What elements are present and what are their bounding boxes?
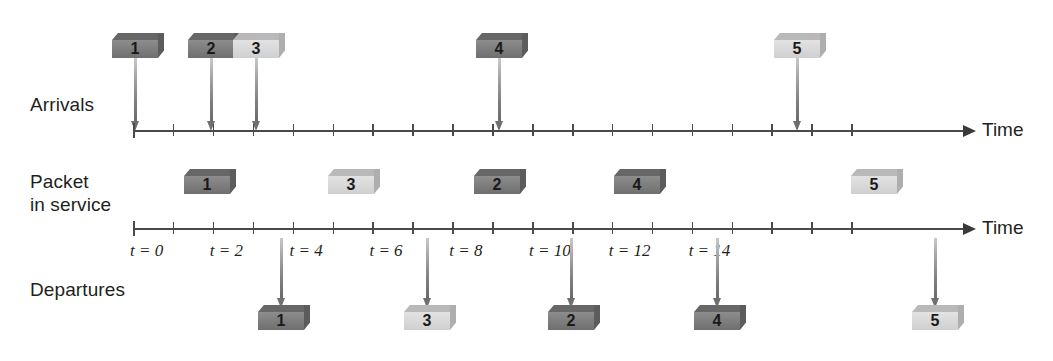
arrivals-axis-tick <box>771 124 773 136</box>
arrival-arrow-5 <box>793 58 802 131</box>
arrivals-axis-tick <box>811 124 813 136</box>
time-caption-t6: t = 6 <box>369 241 402 261</box>
packet-top-face <box>112 33 164 40</box>
packet-id-label: 3 <box>328 176 374 194</box>
packet-top-face <box>258 305 310 312</box>
packet-top-face <box>328 169 380 176</box>
arrivals-axis-tick <box>492 124 494 136</box>
arrow-shaft <box>280 238 283 299</box>
service-axis-tick <box>572 222 574 234</box>
arrivals-axis-arrowhead <box>963 125 976 137</box>
arrivals-time-axis-label: Time <box>982 119 1024 141</box>
packet-top-face <box>404 305 456 312</box>
arrival-packet-5: 5 <box>774 33 826 58</box>
arrivals-axis-line <box>133 130 963 132</box>
service-packet-3: 3 <box>328 169 380 194</box>
time-caption-t4: t = 4 <box>290 241 323 261</box>
service-axis-tick <box>372 222 374 234</box>
arrow-shaft <box>498 58 501 122</box>
packet-top-face <box>474 169 526 176</box>
packet-side-face <box>158 33 164 58</box>
packet-side-face <box>897 169 903 194</box>
arrivals-axis-tick <box>692 124 694 136</box>
service-axis-tick <box>333 222 335 234</box>
packet-top-face <box>548 305 600 312</box>
packet-side-face <box>374 169 380 194</box>
packet-timing-diagram: Arrivals 12345 Time Packet in service 13… <box>0 0 1053 361</box>
packet-side-face <box>820 33 826 58</box>
packet-side-face <box>958 305 964 330</box>
service-axis-tick <box>811 222 813 234</box>
packet-id-label: 1 <box>112 40 158 58</box>
service-packet-1: 1 <box>184 169 236 194</box>
packet-side-face <box>594 305 600 330</box>
service-axis-tick <box>652 222 654 234</box>
arrivals-axis-tick <box>532 124 534 136</box>
departures-row-label: Departures <box>30 278 125 301</box>
departure-packet-4: 4 <box>694 305 746 330</box>
service-axis-tick <box>612 222 614 234</box>
arrivals-axis-tick <box>732 124 734 136</box>
packet-id-label: 1 <box>258 312 304 330</box>
packet-id-label: 3 <box>233 40 279 58</box>
time-caption-t12: t = 12 <box>609 241 651 261</box>
packet-id-label: 3 <box>404 312 450 330</box>
packet-id-label: 1 <box>184 176 230 194</box>
departure-packet-1: 1 <box>258 305 310 330</box>
arrow-shaft <box>255 58 258 122</box>
service-axis-line <box>133 228 963 230</box>
packet-id-label: 2 <box>188 40 234 58</box>
departure-arrow-4 <box>713 238 722 308</box>
departure-arrow-3 <box>423 238 432 308</box>
arrivals-axis-tick <box>851 124 853 136</box>
packet-top-face <box>774 33 826 40</box>
packet-id-label: 4 <box>476 40 522 58</box>
arrivals-axis-tick <box>652 124 654 136</box>
service-time-axis-label: Time <box>982 217 1024 239</box>
packet-top-face <box>184 169 236 176</box>
arrival-packet-4: 4 <box>476 33 528 58</box>
arrivals-axis-tick <box>253 124 255 136</box>
packet-top-face <box>912 305 964 312</box>
packet-side-face <box>230 169 236 194</box>
arrivals-axis-tick <box>412 124 414 136</box>
arrival-arrow-3 <box>252 58 261 131</box>
packet-top-face <box>233 33 285 40</box>
service-axis-tick <box>133 221 135 236</box>
packet-top-face <box>614 169 666 176</box>
packet-side-face <box>740 305 746 330</box>
arrivals-axis-tick <box>293 124 295 136</box>
departure-arrow-1 <box>277 238 286 308</box>
packet-id-label: 4 <box>694 312 740 330</box>
service-axis-tick <box>412 222 414 234</box>
arrivals-axis-tick <box>452 124 454 136</box>
packet-id-label: 5 <box>774 40 820 58</box>
service-axis-arrowhead <box>963 223 976 235</box>
departure-packet-2: 2 <box>548 305 600 330</box>
packet-id-label: 2 <box>548 312 594 330</box>
departure-packet-3: 3 <box>404 305 456 330</box>
packet-side-face <box>522 33 528 58</box>
packet-id-label: 4 <box>614 176 660 194</box>
arrivals-axis-tick <box>572 124 574 136</box>
service-axis-tick <box>771 222 773 234</box>
packet-top-face <box>851 169 903 176</box>
departure-packet-5: 5 <box>912 305 964 330</box>
arrivals-axis-tick <box>133 123 135 138</box>
arrow-shaft <box>796 58 799 122</box>
time-caption-t2: t = 2 <box>210 241 243 261</box>
service-axis-tick <box>692 222 694 234</box>
arrival-arrow-4 <box>495 58 504 131</box>
packet-side-face <box>660 169 666 194</box>
service-packet-2: 2 <box>474 169 526 194</box>
packet-top-face <box>476 33 528 40</box>
arrival-arrow-1 <box>131 58 140 131</box>
packet-side-face <box>450 305 456 330</box>
service-axis-tick <box>492 222 494 234</box>
arrivals-axis-tick <box>173 124 175 136</box>
service-packet-5: 5 <box>851 169 903 194</box>
arrow-shaft <box>210 58 213 122</box>
time-caption-t0: t = 0 <box>130 241 163 261</box>
service-packet-4: 4 <box>614 169 666 194</box>
service-axis-tick <box>851 222 853 234</box>
